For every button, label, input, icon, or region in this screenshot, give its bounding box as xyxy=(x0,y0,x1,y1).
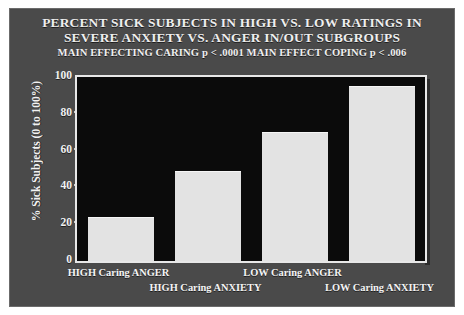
x-axis-label: HIGH Caring ANXIETY xyxy=(149,282,261,293)
bar xyxy=(349,86,415,261)
x-axis-label: LOW Caring ANXIETY xyxy=(325,282,434,293)
y-axis-title: % Sick Subjects (0 to 100%) xyxy=(30,71,42,231)
y-axis-tick-label: 40 xyxy=(46,180,72,190)
bar xyxy=(88,217,154,261)
y-axis-tick-labels: 020406080100 xyxy=(46,75,72,259)
y-axis-tick-label: 60 xyxy=(46,144,72,154)
bar xyxy=(175,171,241,261)
y-axis-tick-label: 0 xyxy=(46,254,72,264)
chart-title-line-2: SEVERE ANXIETY VS. ANGER IN/OUT SUBGROUP… xyxy=(10,30,454,45)
x-axis-label: LOW Caring ANGER xyxy=(243,267,342,278)
chart-title-block: PERCENT SICK SUBJECTS IN HIGH VS. LOW RA… xyxy=(10,15,454,60)
y-axis-tick-label: 20 xyxy=(46,217,72,227)
y-axis-tick-label: 100 xyxy=(46,70,72,80)
x-axis-label: HIGH Caring ANGER xyxy=(68,267,170,278)
plot-frame xyxy=(75,75,427,263)
slide-frame: PERCENT SICK SUBJECTS IN HIGH VS. LOW RA… xyxy=(9,8,455,307)
chart-area: % Sick Subjects (0 to 100%) 020406080100… xyxy=(10,65,456,308)
chart-title-line-1: PERCENT SICK SUBJECTS IN HIGH VS. LOW RA… xyxy=(10,15,454,30)
bar xyxy=(262,132,328,261)
chart-subtitle-pvalues: MAIN EFFECTING CARING p < .0001 MAIN EFF… xyxy=(10,46,454,60)
bar-series xyxy=(77,77,425,261)
x-axis-labels: HIGH Caring ANGERHIGH Caring ANXIETYLOW … xyxy=(10,265,456,309)
y-axis-tick-label: 80 xyxy=(46,107,72,117)
